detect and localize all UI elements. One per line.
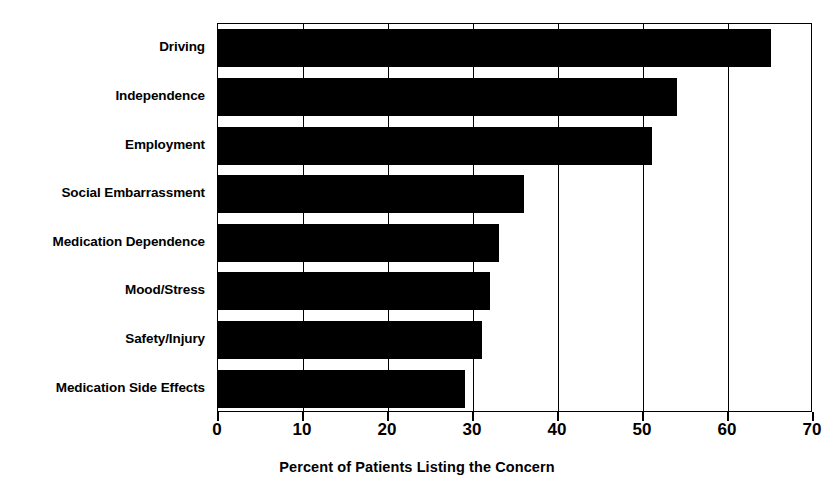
bar [218,272,490,310]
bar [218,78,677,116]
x-axis-tick-label: 60 [697,421,757,440]
x-axis-tick-label: 30 [442,421,502,440]
category-axis-labels: DrivingIndependenceEmploymentSocial Emba… [0,23,211,412]
x-axis-tick-label: 0 [187,421,247,440]
bar [218,370,465,408]
bar [218,127,652,165]
category-label: Mood/Stress [0,283,211,297]
x-axis-tick-labels: 010203040506070 [0,421,834,447]
x-axis-title: Percent of Patients Listing the Concern [0,459,834,475]
x-axis-tick-label: 40 [527,421,587,440]
category-label: Safety/Injury [0,332,211,346]
gridline [728,24,729,411]
x-axis-tick-label: 70 [782,421,834,440]
category-label: Social Embarrassment [0,186,211,200]
bar [218,175,524,213]
bar [218,321,482,359]
x-axis-tick-label: 50 [612,421,672,440]
category-label: Employment [0,138,211,152]
bar [218,224,499,262]
category-label: Medication Side Effects [0,381,211,395]
plot-area [217,23,812,412]
x-axis-tick-label: 10 [272,421,332,440]
bar [218,29,771,67]
x-axis-tick-label: 20 [357,421,417,440]
category-label: Driving [0,40,211,54]
category-label: Independence [0,89,211,103]
category-label: Medication Dependence [0,235,211,249]
bar-chart: DrivingIndependenceEmploymentSocial Emba… [0,0,834,493]
